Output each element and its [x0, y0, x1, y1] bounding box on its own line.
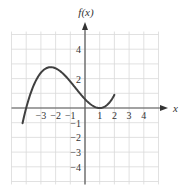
- svg-text:4: 4: [141, 110, 146, 121]
- svg-text:2: 2: [76, 74, 81, 85]
- svg-text:−3: −3: [36, 110, 47, 121]
- svg-text:3: 3: [127, 110, 132, 121]
- y-axis-label: f(x): [78, 6, 94, 19]
- svg-text:1: 1: [97, 110, 102, 121]
- svg-text:−2: −2: [70, 132, 81, 143]
- svg-text:−2: −2: [50, 110, 61, 121]
- svg-text:2: 2: [112, 110, 117, 121]
- x-axis-label: x: [172, 102, 178, 114]
- svg-text:−4: −4: [70, 162, 81, 173]
- function-graph: −3−2−1123442−1−2−3−4 f(x) x: [0, 0, 186, 196]
- svg-text:4: 4: [76, 44, 81, 55]
- svg-text:−3: −3: [70, 147, 81, 158]
- svg-text:−1: −1: [70, 118, 81, 129]
